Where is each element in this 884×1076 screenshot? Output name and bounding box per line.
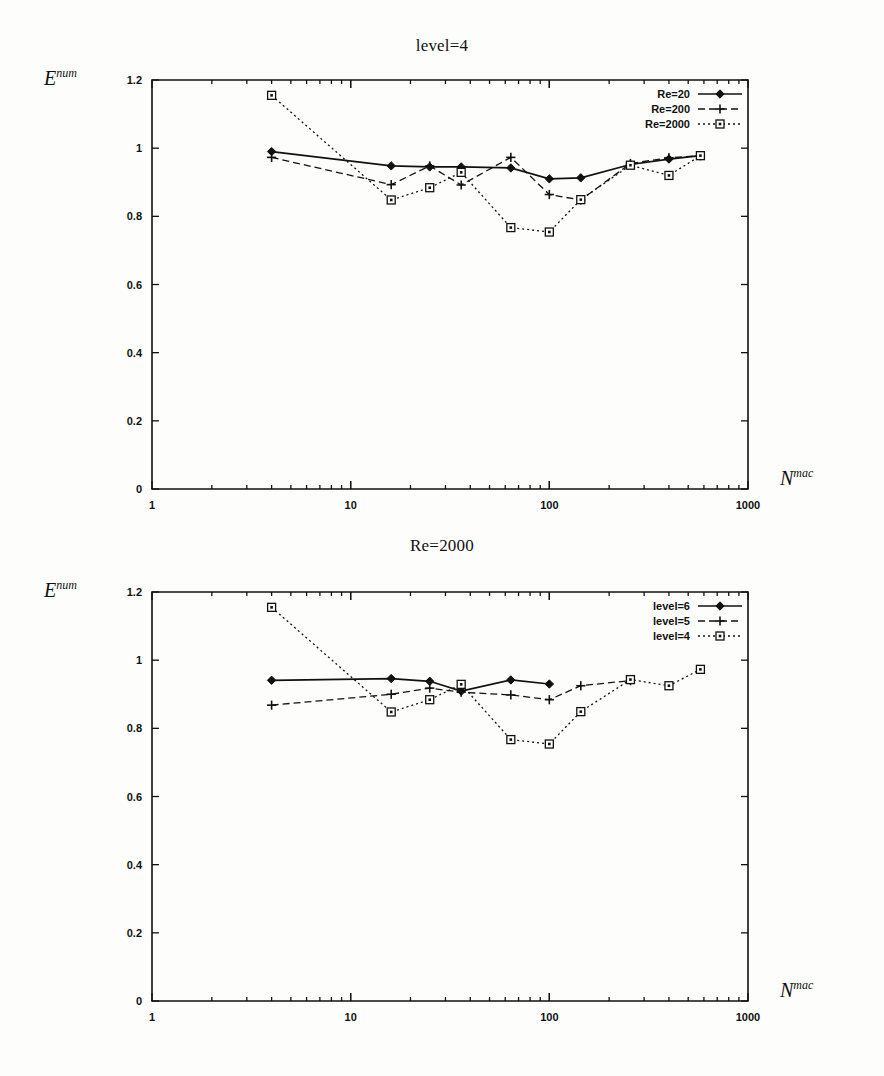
axis-frame: [152, 592, 748, 1001]
data-point-diamond: [387, 162, 395, 170]
x-axis-tick-label: 10: [345, 499, 357, 511]
legend-label-2: level=5: [653, 615, 690, 627]
plot-area-bottom: 00.20.40.60.811.21101001000level=6level=…: [0, 512, 884, 1042]
data-point-diamond: [716, 90, 724, 98]
legend-label-3: level=4: [653, 630, 691, 642]
x-axis-tick-label: 1000: [736, 499, 760, 511]
x-axis-tick-label: 100: [540, 499, 558, 511]
data-point-diamond: [545, 175, 553, 183]
legend-sample-marker-3: [716, 632, 724, 640]
data-point-square-core: [270, 94, 273, 97]
data-point-diamond: [507, 676, 515, 684]
y-axis-tick-label: 0.4: [127, 347, 143, 359]
data-point-diamond: [716, 602, 724, 610]
data-point-square-core: [719, 123, 722, 126]
data-point-square-core: [460, 683, 463, 686]
legend-label-2: Re=200: [651, 103, 690, 115]
data-point-square-core: [668, 174, 671, 177]
chart-panel-top: level=4 Enum Nmac 00.20.40.60.811.211010…: [0, 0, 884, 530]
series-line: [272, 607, 701, 744]
plot-area-top: 00.20.40.60.811.21101001000Re=20Re=200Re…: [0, 0, 884, 530]
x-axis-tick-label: 10: [345, 1011, 357, 1023]
data-point-square-core: [548, 743, 551, 746]
y-axis-tick-label: 0.8: [127, 722, 142, 734]
series-re-20: [267, 147, 704, 183]
legend-label-3: Re=2000: [645, 118, 690, 130]
data-point-square-core: [548, 231, 551, 234]
legend-label-1: Re=20: [657, 88, 690, 100]
x-axis-tick-label: 100: [540, 1011, 558, 1023]
series-level-5: [267, 676, 635, 710]
data-point-diamond: [387, 674, 395, 682]
chart-panel-bottom: Re=2000 Enum Nmac 00.20.40.60.811.211010…: [0, 512, 884, 1076]
data-point-square-core: [390, 199, 393, 202]
data-point-square-core: [510, 738, 513, 741]
data-point-diamond: [267, 676, 275, 684]
data-point-diamond: [545, 680, 553, 688]
x-axis-tick-label: 1: [149, 499, 155, 511]
data-point-square-core: [699, 154, 702, 157]
data-point-square-core: [390, 711, 393, 714]
data-point-square-core: [629, 678, 632, 681]
data-point-square-core: [719, 635, 722, 638]
data-point-square-core: [270, 606, 273, 609]
data-point-square-core: [668, 684, 671, 687]
legend-sample-marker-1: [716, 602, 724, 610]
legend-sample-marker-1: [716, 90, 724, 98]
data-point-diamond: [577, 174, 585, 182]
figure-page: level=4 Enum Nmac 00.20.40.60.811.211010…: [0, 0, 884, 1076]
y-axis-tick-label: 0.2: [127, 415, 142, 427]
legend-sample-marker-3: [716, 120, 724, 128]
data-point-diamond: [507, 164, 515, 172]
series-line: [272, 156, 701, 200]
y-axis-tick-label: 1.2: [127, 74, 142, 86]
x-axis-tick-label: 1: [149, 1011, 155, 1023]
data-point-square-core: [579, 710, 582, 713]
data-point-square-core: [428, 698, 431, 701]
y-axis-tick-label: 1.2: [127, 586, 142, 598]
y-axis-tick-label: 0: [136, 995, 142, 1007]
y-axis-tick-label: 0.6: [127, 791, 142, 803]
data-point-square-core: [579, 198, 582, 201]
legend-sample-marker-2: [715, 616, 724, 625]
y-axis-tick-label: 1: [136, 654, 142, 666]
data-point-square-core: [629, 164, 632, 167]
axis-frame: [152, 80, 748, 489]
y-axis-tick-label: 0: [136, 483, 142, 495]
y-axis-tick-label: 0.2: [127, 927, 142, 939]
data-point-square-core: [510, 226, 513, 229]
series-level-4: [268, 603, 705, 748]
x-axis-tick-label: 1000: [736, 1011, 760, 1023]
legend-label-1: level=6: [653, 600, 690, 612]
data-point-square-core: [699, 668, 702, 671]
data-point-square-core: [460, 171, 463, 174]
series-line: [272, 152, 701, 179]
series-line: [272, 681, 631, 706]
legend-sample-marker-2: [715, 104, 724, 113]
y-axis-tick-label: 0.8: [127, 210, 142, 222]
y-axis-tick-label: 0.6: [127, 279, 142, 291]
data-point-square-core: [428, 186, 431, 189]
y-axis-tick-label: 1: [136, 142, 142, 154]
y-axis-tick-label: 0.4: [127, 859, 143, 871]
